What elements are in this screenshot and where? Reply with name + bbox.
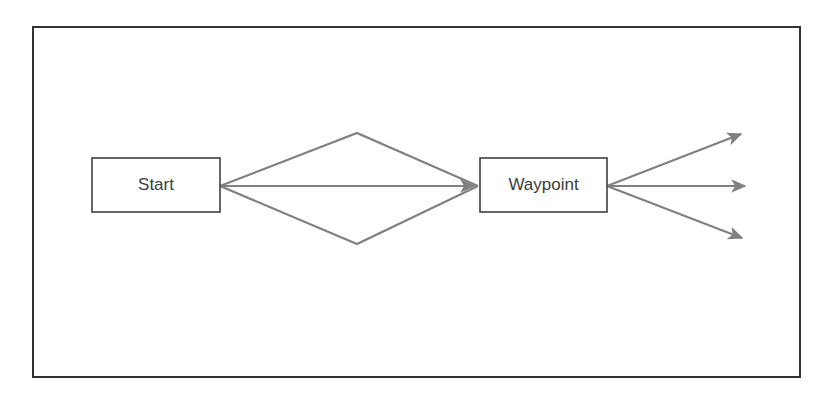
node-start[interactable]: Start xyxy=(92,158,220,212)
diagram-svg: StartWaypoint xyxy=(0,0,830,394)
node-waypoint[interactable]: Waypoint xyxy=(480,158,607,212)
diagram-canvas: StartWaypoint xyxy=(0,0,830,394)
node-start-label: Start xyxy=(138,175,174,194)
node-waypoint-label: Waypoint xyxy=(508,175,579,194)
